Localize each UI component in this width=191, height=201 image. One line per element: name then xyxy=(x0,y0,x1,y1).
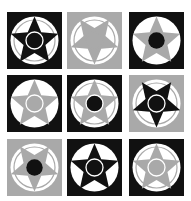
star-tile xyxy=(129,75,184,132)
star-tile xyxy=(7,12,62,69)
star-pattern-grid xyxy=(7,12,184,195)
star-tile xyxy=(129,12,184,69)
star-tile xyxy=(67,75,122,132)
star-tile xyxy=(67,12,122,69)
star-tile xyxy=(7,75,62,132)
star-tile xyxy=(67,139,122,196)
star-tile xyxy=(129,139,184,196)
star-tile xyxy=(7,139,62,196)
